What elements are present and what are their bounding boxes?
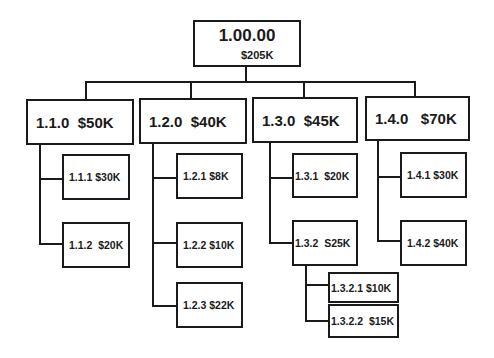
node-amount: $205K <box>241 49 273 61</box>
connector-1-1-2 <box>39 243 62 245</box>
connector-to-1-1-0 <box>85 81 87 99</box>
node-1-2-2: 1.2.2 $10K <box>176 222 243 268</box>
connector-to-1-2-0 <box>190 81 192 98</box>
connector-1-1-trunk <box>39 144 41 244</box>
node-root-1-00-00: 1.00.00 $205K <box>193 20 301 67</box>
connector-1-4-trunk <box>377 140 379 242</box>
node-1-3-2: 1.3.2 S25K <box>292 220 358 266</box>
connector-1-3-1 <box>269 177 292 179</box>
node-1-1-0: 1.1.0 $50K <box>26 99 134 145</box>
connector-1-2-1 <box>152 177 176 179</box>
connector-1-3-2-trunk <box>305 265 307 322</box>
connector-1-2-3 <box>152 305 176 307</box>
node-1-3-2-2: 1.3.2.2 $15K <box>328 304 399 338</box>
connector-1-3-trunk <box>269 142 271 244</box>
connector-1-3-2 <box>269 242 292 244</box>
node-id: 1.00.00 <box>195 26 299 46</box>
node-1-2-0: 1.2.0 $40K <box>139 98 247 144</box>
node-1-2-3: 1.2.3 $22K <box>176 282 243 328</box>
node-1-3-1: 1.3.1 $20K <box>292 153 358 198</box>
node-1-3-2-1: 1.3.2.1 $10K <box>328 272 399 303</box>
connector-to-1-4-0 <box>414 81 416 96</box>
connector-1-3-2-2 <box>305 320 329 322</box>
connector-1-1-1 <box>39 178 62 180</box>
node-1-4-2: 1.4.2 $40K <box>400 220 467 266</box>
connector-1-2-trunk <box>152 143 154 307</box>
connector-1-2-2 <box>152 242 176 244</box>
node-1-1-2: 1.1.2 $20K <box>62 222 130 268</box>
node-1-3-0: 1.3.0 $45K <box>252 97 358 143</box>
node-1-4-0: 1.4.0 $70K <box>365 96 470 141</box>
connector-level1-bus <box>85 81 416 83</box>
connector-to-1-3-0 <box>303 81 305 97</box>
connector-1-3-2-1 <box>305 284 329 286</box>
connector-1-4-2 <box>377 240 400 242</box>
node-1-4-1: 1.4.1 $30K <box>400 152 467 198</box>
node-1-1-1: 1.1.1 $30K <box>62 154 130 200</box>
connector-1-4-1 <box>377 176 400 178</box>
node-1-2-1: 1.2.1 $8K <box>176 153 243 199</box>
